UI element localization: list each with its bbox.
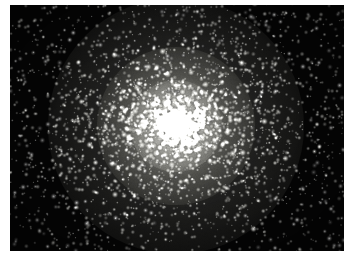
resolved-star-field	[10, 5, 344, 251]
sky-field	[10, 5, 344, 251]
photograph-frame	[0, 0, 352, 261]
